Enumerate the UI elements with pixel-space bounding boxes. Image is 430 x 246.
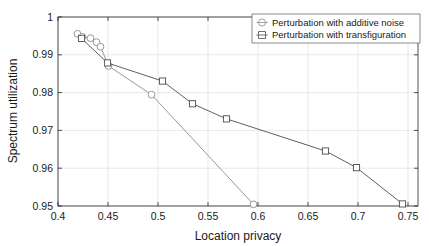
legend-entry-label-1: Perturbation with additive noise — [272, 17, 404, 28]
data-point-circle — [97, 43, 104, 50]
data-point-square — [104, 60, 110, 66]
y-tick-label: 0.99 — [33, 48, 54, 60]
chart-figure: 0.40.450.50.550.60.650.70.750.950.960.97… — [0, 0, 430, 246]
x-tick-label: 0.65 — [298, 210, 319, 222]
legend-entry-label-2: Perturbation with transfiguration — [272, 29, 406, 40]
y-tick-label: 0.98 — [33, 86, 54, 98]
data-point-square — [159, 78, 165, 84]
data-point-circle — [250, 201, 257, 208]
data-point-square — [353, 165, 359, 171]
chart-legend[interactable]: Perturbation with additive noisePerturba… — [252, 14, 420, 43]
data-point-circle — [148, 91, 155, 98]
x-tick-label: 0.55 — [198, 210, 219, 222]
x-tick-label: 0.75 — [398, 210, 419, 222]
x-tick-label: 0.45 — [98, 210, 119, 222]
y-axis-label: Spectrum utilization — [6, 59, 20, 164]
data-point-square — [189, 101, 195, 107]
y-tick-label: 0.96 — [33, 162, 54, 174]
data-point-square — [78, 35, 84, 41]
x-axis-label: Location privacy — [195, 229, 282, 243]
y-tick-label: 0.97 — [33, 124, 54, 136]
data-point-circle — [87, 35, 94, 42]
x-tick-label: 0.4 — [51, 210, 66, 222]
x-tick-label: 0.6 — [251, 210, 266, 222]
chart-svg: 0.40.450.50.550.60.650.70.750.950.960.97… — [0, 0, 430, 246]
y-tick-label: 1 — [47, 11, 53, 23]
y-tick-label: 0.95 — [33, 200, 54, 212]
x-tick-label: 0.5 — [151, 210, 166, 222]
data-point-square — [322, 148, 328, 154]
data-point-square — [399, 201, 405, 207]
x-tick-label: 0.7 — [351, 210, 366, 222]
data-point-square — [223, 116, 229, 122]
